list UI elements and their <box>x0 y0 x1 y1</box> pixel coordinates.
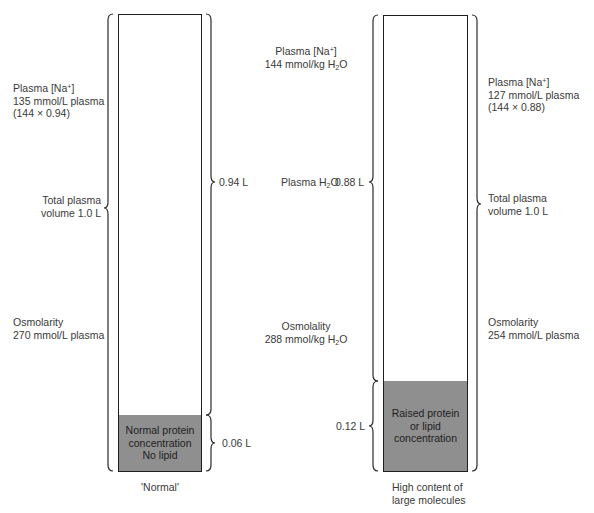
brace-water-high <box>369 15 378 381</box>
brace-solids-high <box>369 381 378 471</box>
water-volume-high: 0.88 L <box>335 176 364 189</box>
solids-volume-high: 0.12 L <box>336 420 365 433</box>
solids-label-high: Raised protein or lipid concentration <box>384 407 467 445</box>
osmolality-label: Osmolality 288 mmol/kg H2O <box>246 320 366 345</box>
water-volume-normal: 0.94 L <box>219 176 248 189</box>
solids-fill-normal: Normal protein concentration No lipid <box>119 415 201 471</box>
caption-normal: 'Normal' <box>118 481 202 494</box>
plasma-water-label: Plasma H2O <box>281 176 339 189</box>
brace-water-normal <box>206 14 215 415</box>
solids-fill-high: Raised protein or lipid concentration <box>384 381 467 471</box>
brace-total-volume-high <box>472 15 481 471</box>
solids-label-normal: Normal protein concentration No lipid <box>119 424 201 462</box>
total-volume-high-label: Total plasma volume 1.0 L <box>488 192 548 217</box>
tube-high: Raised protein or lipid concentration <box>383 15 468 472</box>
sodium-high-label: Plasma [Na+] 127 mmol/L plasma (144 × 0.… <box>488 76 579 114</box>
total-volume-normal-label: Total plasma volume 1.0 L <box>41 194 101 219</box>
osmolarity-normal-label: Osmolarity 270 mmol/L plasma <box>13 316 104 341</box>
brace-total-volume-normal <box>104 14 113 471</box>
brace-solids-normal <box>206 415 215 471</box>
sodium-water-label: Plasma [Na+] 144 mmol/kg H2O <box>246 45 366 70</box>
tube-normal: Normal protein concentration No lipid <box>118 14 202 472</box>
solids-volume-normal: 0.06 L <box>222 437 251 450</box>
caption-high: High content of large molecules <box>392 481 466 506</box>
sodium-normal-label: Plasma [Na+] 135 mmol/L plasma (144 × 0.… <box>13 82 104 120</box>
osmolarity-high-label: Osmolarity 254 mmol/L plasma <box>488 316 579 341</box>
